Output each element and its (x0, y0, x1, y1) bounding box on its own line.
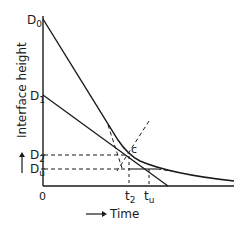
label-t2: t2 (125, 189, 135, 205)
label-point-c: c (131, 143, 137, 156)
label-origin: 0 (39, 190, 46, 203)
x-arrowhead-icon (102, 211, 107, 217)
label-tu: tu (144, 189, 154, 205)
x-axis-label: Time (109, 207, 139, 221)
y-arrowhead-icon (19, 152, 25, 157)
y-axis-label: Interface height (15, 42, 29, 138)
settling-diagram: D0 D1 D2 Du c 0 t2 tu Time Interface hei… (0, 0, 247, 229)
settling-curve (43, 19, 234, 181)
tangent-line (43, 95, 168, 186)
bisector-dashed-2 (108, 125, 122, 168)
label-d0: D0 (27, 13, 42, 29)
